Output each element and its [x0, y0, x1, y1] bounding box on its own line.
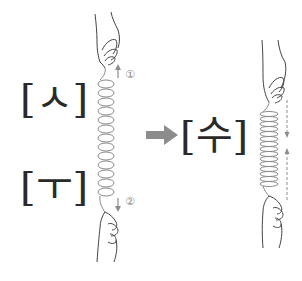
right-arrow-icon — [146, 125, 178, 145]
top-hand-icon — [262, 40, 286, 103]
compressed-spring — [260, 102, 278, 196]
bottom-hand-icon — [262, 196, 283, 248]
down-arrow-icon — [115, 198, 121, 212]
dashed-up-arrow-icon — [285, 148, 290, 200]
marker-two: ② — [125, 195, 135, 208]
label-u-vowel: [ㅜ] — [20, 166, 88, 206]
dashed-down-arrow-icon — [285, 100, 290, 138]
stretched-spring — [98, 68, 114, 212]
top-hand-icon — [95, 12, 120, 68]
label-su-syllable: [수] — [180, 115, 248, 155]
bottom-hand-icon — [97, 212, 118, 262]
up-arrow-icon — [115, 64, 121, 78]
marker-one: ① — [125, 68, 135, 81]
compressed-spring-illustration — [245, 0, 302, 281]
stretched-spring-illustration — [80, 0, 140, 281]
label-s-consonant: [ㅅ] — [20, 78, 88, 118]
